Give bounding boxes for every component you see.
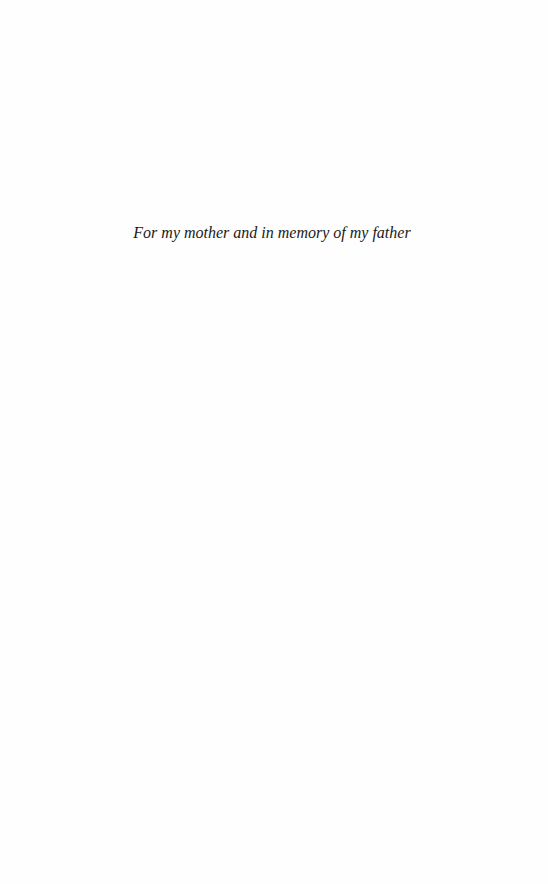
book-page: For my mother and in memory of my father <box>0 0 548 884</box>
dedication: For my mother and in memory of my father <box>0 224 548 242</box>
dedication-text: For my mother and in memory of my father <box>133 224 410 242</box>
